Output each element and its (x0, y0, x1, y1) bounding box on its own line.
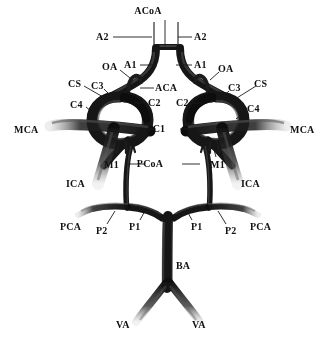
vessel-label-ba: BA (176, 261, 190, 271)
vessel-label-cs-left: CS (68, 79, 81, 89)
vessel-label-c1: C1 (153, 124, 166, 134)
vessel-label-p1-left: P1 (129, 222, 141, 232)
vessel-label-a1-right: A1 (194, 60, 207, 70)
vessel-label-m1-right: M1 (210, 160, 225, 170)
vessel-label-c4-right: C4 (247, 104, 260, 114)
vessel-label-oa-left: OA (102, 62, 117, 72)
vessel-label-va-left: VA (116, 320, 130, 330)
vessel-label-a2-left: A2 (96, 32, 109, 42)
circle-of-willis-diagram: ACoAA2A2A1A1OAOACSCSC3C3ACAC4C4C2C2MCAMC… (0, 0, 336, 341)
vessel-label-p2-right: P2 (225, 226, 237, 236)
vessel-label-ica-left: ICA (66, 179, 85, 189)
vessel-label-a2-right: A2 (194, 32, 207, 42)
vessel-label-cs-right: CS (254, 79, 267, 89)
vessel-label-mca-right: MCA (290, 125, 314, 135)
vessel-label-pcoa: PCoA (137, 159, 163, 169)
vessel-label-c3-left: C3 (91, 81, 104, 91)
vessel-label-va-right: VA (192, 320, 206, 330)
vessel-label-a1-left: A1 (124, 60, 137, 70)
vessel-label-aca: ACA (155, 83, 177, 93)
vessel-label-c3-right: C3 (228, 83, 241, 93)
vessel-label-pca-right: PCA (250, 222, 271, 232)
vessel-label-p1-right: P1 (191, 222, 203, 232)
vessel-label-c2-left: C2 (148, 98, 161, 108)
vessel-label-c2-right: C2 (176, 98, 189, 108)
vessel-label-oa-right: OA (218, 64, 233, 74)
vessel-label-p2-left: P2 (96, 226, 108, 236)
vessel-label-m1-left: M1 (104, 160, 119, 170)
vessel-label-acoa: ACoA (134, 6, 161, 16)
label-layer: ACoAA2A2A1A1OAOACSCSC3C3ACAC4C4C2C2MCAMC… (0, 0, 336, 341)
vessel-label-ica-right: ICA (241, 179, 260, 189)
vessel-label-pca-left: PCA (60, 222, 81, 232)
vessel-label-mca-left: MCA (14, 125, 38, 135)
vessel-label-c4-left: C4 (70, 100, 83, 110)
